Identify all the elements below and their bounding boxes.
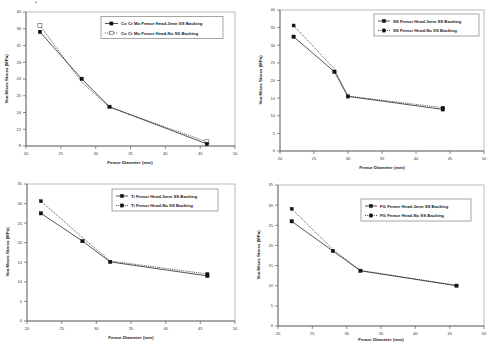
chart-panel-ti: 20 25 30 35 40 45 50 0 bbox=[0, 171, 248, 342]
y-tick-label: 15 bbox=[17, 260, 22, 265]
legend-co-cr-mo[interactable]: Co Cr Mo Femur Head-3mm SS Backing Co Cr… bbox=[101, 17, 223, 39]
y-tick-label: 25 bbox=[17, 221, 22, 226]
x-tick-label: 35 bbox=[129, 326, 134, 331]
y-tick-label: 0 bbox=[273, 148, 276, 153]
x-tick-label: 50 bbox=[482, 331, 487, 336]
legend-label: Ti Femur Head-3mm SS Backing bbox=[131, 194, 197, 199]
series-line-solid bbox=[41, 213, 208, 276]
x-tick-label: 20 bbox=[276, 331, 281, 336]
x-tick-label: 40 bbox=[413, 331, 418, 336]
x-axis-title: Femur Diameter (mm) bbox=[359, 165, 405, 170]
y-tick-label: 15 bbox=[270, 96, 275, 101]
x-tick-label: 25 bbox=[312, 156, 317, 161]
y-tick-label: 35 bbox=[270, 25, 275, 30]
legend-label: Co Cr Mo Femur Head-No SS Backing bbox=[121, 31, 198, 36]
legend-label: SS Femur Head-No SS Backing bbox=[393, 28, 457, 33]
legend-ti[interactable]: Ti Femur Head-3mm SS Backing Ti Femur He… bbox=[112, 189, 218, 211]
series-markers-solid bbox=[38, 30, 208, 145]
x-ticks: 20 25 30 35 40 45 50 bbox=[24, 146, 238, 156]
x-tick-label: 50 bbox=[482, 156, 487, 161]
series-line-dotted bbox=[40, 25, 207, 142]
x-tick-label: 50 bbox=[233, 151, 238, 156]
series-line-dotted bbox=[294, 26, 443, 108]
x-tick-label: 45 bbox=[198, 326, 203, 331]
y-axis-title: Von Mises Stress (MPa) bbox=[5, 227, 10, 277]
y-tick-label: 10 bbox=[268, 283, 273, 288]
y-tick-label: 30 bbox=[270, 43, 275, 48]
y-ticks: 0 5 10 15 20 25 30 35 bbox=[268, 182, 278, 328]
y-tick-label: 12 bbox=[16, 127, 21, 132]
y-tick-label: 35 bbox=[17, 181, 22, 186]
chart-svg-fg: 20 25 30 35 40 45 50 0 bbox=[249, 171, 497, 342]
series-markers-dotted bbox=[290, 207, 293, 210]
y-axis-title: Von Mises Stress (MPa) bbox=[256, 230, 261, 280]
figure-sheet: 20 25 30 35 40 45 50 bbox=[0, 0, 497, 342]
series-markers-solid bbox=[292, 35, 445, 111]
y-axis-title: Von Mises Stress (MPa) bbox=[258, 55, 263, 105]
chart-panel-co-cr-mo: 20 25 30 35 40 45 50 bbox=[0, 0, 248, 171]
legend-label: FG Femur Head-3mm SS Backing bbox=[380, 204, 449, 209]
y-tick-label: 10 bbox=[17, 279, 22, 284]
x-tick-label: 35 bbox=[379, 331, 384, 336]
y-tick-label: 5 bbox=[271, 303, 274, 308]
x-ticks: 20 25 30 35 40 45 50 bbox=[278, 151, 487, 161]
x-tick-label: 20 bbox=[278, 156, 283, 161]
chart-panel-fg: 20 25 30 35 40 45 50 0 bbox=[249, 171, 497, 342]
x-tick-label: 30 bbox=[94, 326, 99, 331]
y-tick-label: 10 bbox=[270, 113, 275, 118]
legend-ss[interactable]: SS Femur Head-3mm SS Backing SS Femur He… bbox=[374, 14, 479, 36]
x-tick-label: 30 bbox=[346, 156, 351, 161]
x-ticks: 20 25 30 35 40 45 50 bbox=[25, 321, 238, 331]
x-tick-label: 30 bbox=[93, 151, 98, 156]
y-tick-label: 0 bbox=[271, 323, 274, 328]
series-line-solid bbox=[40, 32, 207, 144]
x-axis-title: Femur Diameter (mm) bbox=[107, 160, 153, 165]
x-tick-label: 45 bbox=[447, 331, 452, 336]
y-tick-label: 25 bbox=[268, 223, 273, 228]
y-tick-label: 35 bbox=[268, 182, 273, 187]
series-line-dotted bbox=[41, 201, 208, 274]
legend-label: Ti Femur Head-No SS Backing bbox=[131, 203, 193, 208]
y-tick-label: 15 bbox=[268, 263, 273, 268]
y-tick-label: 24 bbox=[16, 76, 21, 81]
series-markers-solid bbox=[290, 220, 458, 288]
y-tick-label: 8 bbox=[19, 143, 22, 148]
x-tick-label: 35 bbox=[128, 151, 133, 156]
y-tick-label: 30 bbox=[17, 201, 22, 206]
legend-fg[interactable]: FG Femur Head-3mm SS Backing FG Femur He… bbox=[361, 199, 471, 221]
x-tick-label: 30 bbox=[344, 331, 349, 336]
y-tick-label: 5 bbox=[20, 299, 23, 304]
y-tick-label: 16 bbox=[16, 110, 21, 115]
y-ticks: 8 12 16 20 24 28 32 36 40 bbox=[16, 9, 26, 148]
y-tick-label: 40 bbox=[270, 7, 275, 12]
series-markers-dotted bbox=[38, 23, 209, 144]
x-tick-label: 40 bbox=[163, 326, 168, 331]
y-tick-label: 20 bbox=[16, 93, 21, 98]
y-tick-label: 20 bbox=[17, 240, 22, 245]
y-tick-label: 40 bbox=[16, 9, 21, 14]
y-tick-label: 36 bbox=[16, 26, 21, 31]
chart-svg-ti: 20 25 30 35 40 45 50 0 bbox=[0, 171, 248, 342]
scan-speck bbox=[35, 2, 37, 4]
x-tick-label: 50 bbox=[233, 326, 238, 331]
x-axis-title: Femur Diameter (mm) bbox=[108, 335, 154, 340]
legend-label: SS Femur Head-3mm SS Backing bbox=[393, 19, 461, 24]
series-line-solid bbox=[292, 221, 457, 285]
series-markers-solid bbox=[39, 212, 209, 278]
legend-label: Co Cr Mo Femur Head-3mm SS Backing bbox=[121, 21, 203, 26]
x-tick-label: 25 bbox=[59, 151, 64, 156]
y-ticks: 0 5 10 15 20 25 30 35 40 bbox=[270, 7, 280, 153]
x-tick-label: 40 bbox=[414, 156, 419, 161]
y-tick-label: 32 bbox=[16, 43, 21, 48]
x-tick-label: 45 bbox=[448, 156, 453, 161]
chart-panel-ss: 20 25 30 35 40 45 50 bbox=[249, 0, 497, 171]
y-tick-label: 20 bbox=[270, 78, 275, 83]
x-ticks: 20 25 30 35 40 45 50 bbox=[276, 326, 487, 336]
y-tick-label: 20 bbox=[268, 243, 273, 248]
y-tick-label: 0 bbox=[20, 318, 23, 323]
y-axis-title: Von Mises Stress (MPa) bbox=[4, 54, 9, 104]
y-tick-label: 28 bbox=[16, 60, 21, 65]
x-tick-label: 45 bbox=[198, 151, 203, 156]
x-tick-label: 20 bbox=[24, 151, 29, 156]
y-tick-label: 25 bbox=[270, 60, 275, 65]
